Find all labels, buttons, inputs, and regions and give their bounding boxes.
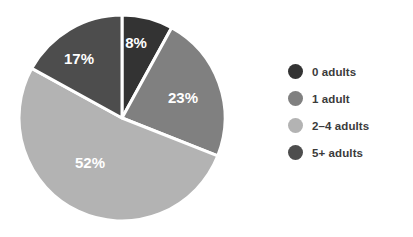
pie-chart: 8%23%52%17% 0 adults 1 adult 2–4 adults … — [0, 0, 413, 237]
legend-item-label: 2–4 adults — [312, 120, 369, 132]
pie-slice-data-label: 52% — [75, 154, 105, 171]
legend-swatch-icon — [288, 64, 303, 79]
legend-swatch-icon — [288, 91, 303, 106]
legend-swatch-icon — [288, 118, 303, 133]
pie-svg: 8%23%52%17% — [0, 0, 250, 237]
pie-slice-data-label: 8% — [125, 34, 147, 51]
pie-slice-data-label: 17% — [64, 50, 94, 67]
pie-plot-area: 8%23%52%17% — [0, 0, 250, 237]
legend-swatch-icon — [288, 145, 303, 160]
legend-item-label: 0 adults — [312, 66, 356, 78]
legend-item-0-adults[interactable]: 0 adults — [288, 58, 413, 85]
legend-item-2-4-adults[interactable]: 2–4 adults — [288, 112, 413, 139]
legend: 0 adults 1 adult 2–4 adults 5+ adults — [288, 58, 413, 166]
pie-slice-data-label: 23% — [168, 89, 198, 106]
legend-item-label: 1 adult — [312, 93, 350, 105]
legend-item-1-adult[interactable]: 1 adult — [288, 85, 413, 112]
legend-item-5-plus-adults[interactable]: 5+ adults — [288, 139, 413, 166]
legend-item-label: 5+ adults — [312, 147, 363, 159]
pie-slice-group — [19, 15, 225, 221]
